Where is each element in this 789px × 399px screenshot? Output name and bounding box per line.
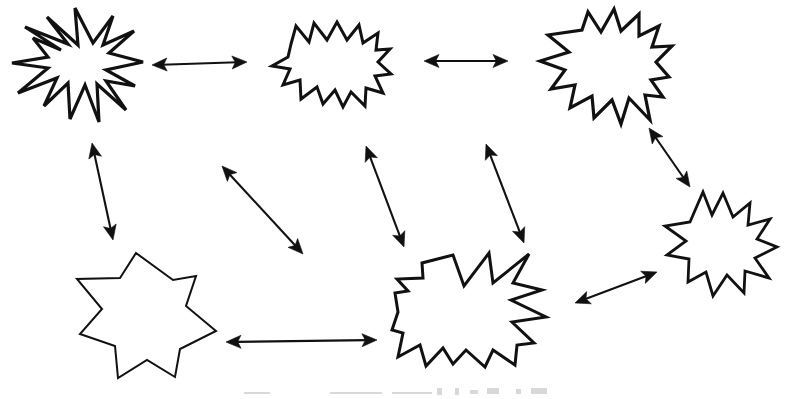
diagram-canvas: Top-left to top-middleTop-middle to top-… — [0, 0, 789, 399]
paper-smudge — [531, 388, 547, 394]
paper-smudge — [455, 388, 459, 395]
paper-smudge — [516, 389, 521, 394]
paper-smudge — [392, 392, 432, 394]
paper-smudge — [244, 392, 270, 394]
paper-smudge — [330, 392, 382, 394]
paper-smudge — [487, 388, 499, 394]
starburst-diagram: Top-left to top-middleTop-middle to top-… — [0, 0, 789, 399]
paper-smudge — [470, 390, 478, 394]
paper-smudge — [437, 388, 442, 395]
